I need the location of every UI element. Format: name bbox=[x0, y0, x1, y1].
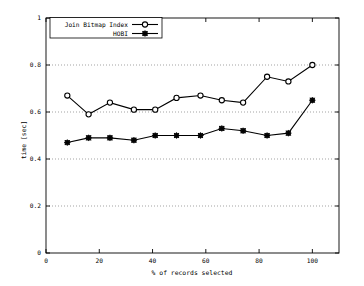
data-point-marker bbox=[107, 100, 112, 105]
data-point-marker bbox=[131, 107, 136, 112]
legend-label-1: Join Bitmap Index bbox=[65, 21, 129, 29]
data-point-marker bbox=[310, 62, 315, 67]
data-point-marker bbox=[198, 93, 203, 98]
data-point-marker bbox=[85, 135, 91, 141]
data-point-marker bbox=[241, 100, 246, 105]
data-point-marker bbox=[153, 107, 158, 112]
data-point-marker bbox=[264, 132, 270, 138]
x-axis-tick-label: 60 bbox=[202, 257, 210, 264]
x-axis-title: % of records selected bbox=[152, 269, 233, 277]
chart-container: 00.20.40.60.81 020406080100 % of records… bbox=[0, 0, 364, 286]
legend-label-2: HOBI bbox=[113, 30, 128, 37]
data-point-marker bbox=[107, 135, 113, 141]
data-point-marker bbox=[131, 137, 137, 143]
data-point-marker bbox=[64, 139, 70, 145]
data-point-marker bbox=[173, 132, 179, 138]
data-point-marker bbox=[86, 112, 91, 117]
data-point-marker bbox=[219, 125, 225, 131]
data-point-marker bbox=[286, 79, 291, 84]
x-axis-tick-label: 20 bbox=[96, 257, 104, 264]
y-axis-tick-label: 0.8 bbox=[30, 61, 41, 68]
chart-legend: Join Bitmap IndexHOBI bbox=[50, 18, 162, 39]
data-point-marker bbox=[152, 132, 158, 138]
star-marker-icon bbox=[142, 30, 148, 36]
data-point-marker bbox=[264, 74, 269, 79]
line-chart-plot: 00.20.40.60.81 020406080100 % of records… bbox=[0, 0, 364, 286]
data-point-marker bbox=[197, 132, 203, 138]
y-axis-tick-label: 0.6 bbox=[30, 108, 41, 115]
x-axis-tick-label: 40 bbox=[149, 257, 157, 264]
data-point-marker bbox=[174, 95, 179, 100]
data-point-marker bbox=[240, 128, 246, 134]
x-axis-tick-label: 0 bbox=[44, 257, 48, 264]
circle-marker-icon bbox=[142, 22, 147, 27]
y-axis-tick-label: 0 bbox=[37, 249, 41, 256]
data-point-marker bbox=[285, 130, 291, 136]
y-axis-tick-label: 1 bbox=[37, 14, 41, 21]
data-point-marker bbox=[309, 97, 315, 103]
y-axis-tick-label: 0.2 bbox=[30, 202, 41, 209]
y-axis-tick-label: 0.4 bbox=[30, 155, 41, 162]
x-axis-tick-label: 100 bbox=[307, 257, 318, 264]
data-point-marker bbox=[219, 98, 224, 103]
y-axis-title: time [sec] bbox=[20, 121, 28, 159]
data-point-marker bbox=[65, 93, 70, 98]
x-axis-tick-label: 80 bbox=[255, 257, 263, 264]
